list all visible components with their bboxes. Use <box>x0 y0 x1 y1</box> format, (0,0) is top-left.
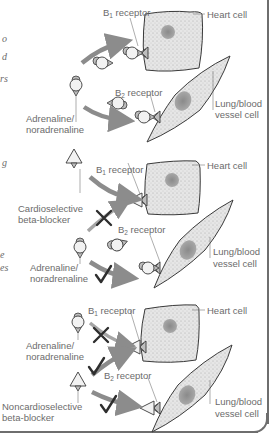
b2-receptor-label: B2 receptor <box>115 87 162 98</box>
beta-blocker-diagram: o d rs g e es <box>0 0 272 440</box>
heart-cell-shape <box>145 161 201 215</box>
panel-3-graphics <box>70 305 232 432</box>
cardioselective-blocker-label-line2: beta-blocker <box>18 214 70 225</box>
heart-cell-nucleus <box>161 25 175 39</box>
b1-receptor-label: B1 receptor <box>96 164 143 175</box>
agonist-label-line1: Adrenaline/ <box>26 113 74 124</box>
lung-cell-label-line1: Lung/blood <box>215 396 262 407</box>
b1-receptor-label: B1 receptor <box>103 7 150 18</box>
heart-cell-shape <box>143 11 202 71</box>
noncardioselective-blocker-label-line2: beta-blocker <box>2 412 54 423</box>
agonist-label-line1: Adrenaline/ <box>26 340 74 351</box>
blocked-cross-icon <box>97 211 111 225</box>
heart-cell-label: Heart cell <box>207 9 247 20</box>
b1-receptor-label: B1 receptor <box>88 305 135 316</box>
agonist-label-line1: Adrenaline/ <box>30 262 78 273</box>
lung-cell-label-line2: vessel cell <box>215 109 259 120</box>
panel-1-graphics <box>70 11 230 142</box>
lung-cell-label-line2: vessel cell <box>213 258 257 269</box>
lung-cell-label-line1: Lung/blood <box>213 246 260 257</box>
heart-cell-label: Heart cell <box>207 160 247 171</box>
b2-receptor-label: B2 receptor <box>118 224 165 235</box>
heart-cell-label: Heart cell <box>207 305 247 316</box>
heart-cell-shape <box>141 305 199 362</box>
lung-cell-label-line1: Lung/blood <box>215 98 262 109</box>
lung-cell-label-line2: vessel cell <box>215 408 259 419</box>
agonist-label-line2: noradrenaline <box>30 273 88 284</box>
agonist-label-line2: noradrenaline <box>26 351 84 362</box>
noncardioselective-blocker-label-line1: Noncardioselective <box>2 401 82 412</box>
agonist-label-line2: noradrenaline <box>26 124 84 135</box>
cardioselective-blocker-label-line1: Cardioselective <box>18 203 83 214</box>
b2-receptor-label: B2 receptor <box>104 370 151 381</box>
